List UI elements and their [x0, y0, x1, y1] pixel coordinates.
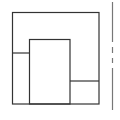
inner-rectangle — [30, 40, 71, 105]
outer-rectangle — [13, 13, 100, 105]
diagram-canvas — [0, 0, 120, 120]
